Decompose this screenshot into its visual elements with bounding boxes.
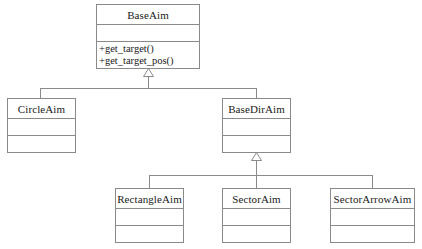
class-operations-circle-aim <box>8 136 75 152</box>
edge-drop-basediraim <box>256 88 257 98</box>
class-operations-sector-arrow-aim <box>331 226 414 242</box>
class-operations-base-dir-aim <box>223 136 290 152</box>
generalization-arrow-baseaim <box>143 68 154 77</box>
class-name-base-aim: BaseAim <box>97 5 199 25</box>
class-name-sector-arrow-aim: SectorArrowAim <box>331 189 414 209</box>
class-box-sector-aim[interactable]: SectorAim <box>222 188 291 243</box>
edge-drop-sectorarrowaim <box>372 175 373 188</box>
class-name-rectangle-aim: RectangleAim <box>116 189 183 209</box>
class-attributes-rectangle-aim <box>116 209 183 226</box>
class-operations-rectangle-aim <box>116 226 183 242</box>
class-box-sector-arrow-aim[interactable]: SectorArrowAim <box>330 188 415 243</box>
edge-drop-circleaim <box>40 88 41 98</box>
edge-baseaim-bus <box>40 88 257 89</box>
class-operations-sector-aim <box>223 226 290 242</box>
class-box-rectangle-aim[interactable]: RectangleAim <box>115 188 184 243</box>
edge-basediraim-stem <box>256 160 257 176</box>
class-name-circle-aim: CircleAim <box>8 99 75 119</box>
operation-get-target-pos: +get_target_pos() <box>99 55 197 67</box>
edge-basediraim-bus <box>149 175 373 176</box>
class-attributes-sector-arrow-aim <box>331 209 414 226</box>
class-box-base-aim[interactable]: BaseAim +get_target() +get_target_pos() <box>96 4 200 69</box>
uml-class-diagram-canvas: BaseAim +get_target() +get_target_pos() … <box>0 0 422 249</box>
class-operations-base-aim: +get_target() +get_target_pos() <box>97 42 199 68</box>
class-box-base-dir-aim[interactable]: BaseDirAim <box>222 98 291 153</box>
class-attributes-circle-aim <box>8 119 75 136</box>
generalization-arrow-basediraim <box>251 152 262 161</box>
class-attributes-base-dir-aim <box>223 119 290 136</box>
class-name-base-dir-aim: BaseDirAim <box>223 99 290 119</box>
class-name-sector-aim: SectorAim <box>223 189 290 209</box>
edge-drop-sectoraim <box>256 175 257 188</box>
edge-drop-rectangleaim <box>149 175 150 188</box>
operation-get-target: +get_target() <box>99 43 197 55</box>
class-attributes-base-aim <box>97 25 199 42</box>
class-attributes-sector-aim <box>223 209 290 226</box>
class-box-circle-aim[interactable]: CircleAim <box>7 98 76 153</box>
